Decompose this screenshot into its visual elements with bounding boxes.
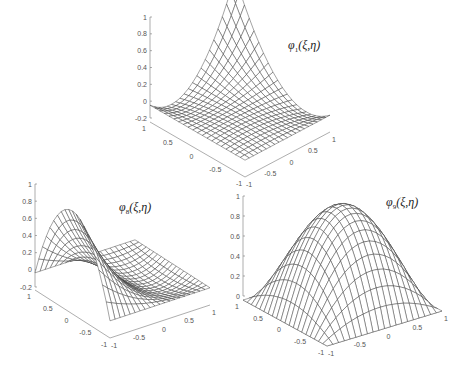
xi-tick-label: 0: [387, 333, 391, 340]
figure-canvas: -0.200.20.40.60.8110.50-0.5-1-1-0.500.51…: [0, 0, 472, 369]
title-symbol: φ: [386, 195, 393, 209]
surface-plot-phi9: 00.20.40.60.8110.50-0.5-1-1-0.500.51: [230, 193, 448, 358]
xi-tick-label: 0.5: [412, 324, 422, 331]
title-symbol: φ: [288, 38, 295, 52]
surface-mesh: [35, 210, 210, 321]
plot-title-phi8: φ8(ξ,η): [119, 200, 151, 216]
z-tick-label: 0.6: [22, 215, 32, 222]
z-tick-label: 1: [143, 14, 147, 21]
z-tick-label: 0.4: [230, 253, 240, 260]
plot-title-phi1: φ1(ξ,η): [288, 38, 320, 54]
z-tick-label: 0.4: [22, 232, 32, 239]
title-args: (ξ,η): [396, 195, 418, 209]
xi-tick-label: 1: [212, 309, 216, 316]
z-tick-label: 0.2: [137, 81, 147, 88]
eta-tick-label: -0.5: [294, 338, 306, 345]
z-tick-label: 0.6: [230, 233, 240, 240]
title-symbol: φ: [119, 200, 126, 214]
z-tick-label: 0.8: [230, 213, 240, 220]
xi-tick-label: 0: [290, 159, 294, 166]
plot-title-phi9: φ9(ξ,η): [386, 195, 418, 211]
eta-tick-label: 0.5: [43, 305, 53, 312]
xi-tick-label: -0.5: [133, 334, 145, 341]
eta-tick-label: -0.5: [79, 329, 91, 336]
eta-axis: [35, 290, 110, 338]
z-tick-label: 0.4: [137, 64, 147, 71]
eta-tick-label: 0: [190, 153, 194, 160]
z-tick-label: -0.2: [135, 115, 147, 122]
xi-tick-label: 0: [162, 326, 166, 333]
z-tick-label: 0.2: [230, 273, 240, 280]
xi-tick-label: -1: [111, 342, 117, 349]
eta-tick-label: 1: [235, 303, 239, 310]
eta-tick-label: 1: [142, 125, 146, 132]
z-tick-label: 0: [236, 293, 240, 300]
surface-plot-phi8: -0.200.20.40.60.8110.50-0.5-1-1-0.500.51: [20, 181, 216, 350]
eta-tick-label: -0.5: [209, 166, 221, 173]
xi-tick-label: 1: [444, 315, 448, 322]
title-args: (ξ,η): [298, 38, 320, 52]
eta-tick-label: 0.5: [163, 139, 173, 146]
eta-tick-label: 0.5: [253, 315, 263, 322]
surface-mesh: [150, 0, 330, 160]
z-tick-label: 0.6: [137, 47, 147, 54]
z-tick-label: -0.2: [20, 284, 32, 291]
xi-tick-label: 0.5: [308, 147, 318, 154]
z-tick-label: 0: [143, 98, 147, 105]
z-tick-label: 1: [28, 181, 32, 188]
xi-tick-label: -0.5: [264, 170, 276, 177]
z-tick-label: 0.8: [22, 198, 32, 205]
eta-tick-label: 0: [277, 326, 281, 333]
xi-tick-label: -0.5: [354, 341, 366, 348]
eta-tick-label: -1: [236, 180, 242, 187]
z-tick-label: 0.2: [22, 249, 32, 256]
z-tick-label: 1: [236, 193, 240, 200]
surface-plot-phi1: -0.200.20.40.60.8110.50-0.5-1-1-0.500.51: [135, 0, 336, 188]
z-tick-label: 0: [28, 266, 32, 273]
eta-tick-label: -1: [101, 341, 107, 348]
eta-tick-label: -1: [318, 349, 324, 356]
xi-tick-label: 1: [332, 136, 336, 143]
z-tick-label: 0.8: [137, 30, 147, 37]
eta-tick-label: 0: [65, 317, 69, 324]
eta-tick-label: 1: [27, 293, 31, 300]
xi-tick-label: 0.5: [184, 317, 194, 324]
xi-tick-label: -1: [328, 350, 334, 357]
xi-tick-label: -1: [246, 181, 252, 188]
title-args: (ξ,η): [129, 200, 151, 214]
